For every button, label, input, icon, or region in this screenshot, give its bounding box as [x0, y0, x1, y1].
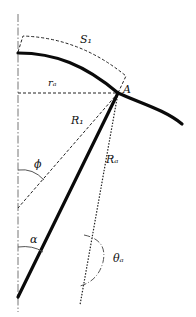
label-point-a: A: [122, 83, 131, 96]
label-r1: R₁: [70, 114, 84, 127]
diagram-canvas: S₁ rₐ A R₁ ϕ Rₐ α θₐ: [0, 0, 196, 317]
ra-line: [80, 93, 118, 305]
label-ra: Rₐ: [105, 153, 118, 166]
label-phi: ϕ: [34, 158, 42, 171]
label-ra-radius: rₐ: [48, 77, 57, 88]
angle-theta-a-arc: [80, 235, 104, 286]
label-theta-a: θₐ: [113, 252, 124, 265]
label-alpha: α: [30, 233, 38, 246]
angle-phi-arc: [18, 170, 44, 180]
r1-line: [18, 93, 118, 208]
label-s1: S₁: [80, 33, 92, 46]
thick-line: [18, 93, 118, 297]
